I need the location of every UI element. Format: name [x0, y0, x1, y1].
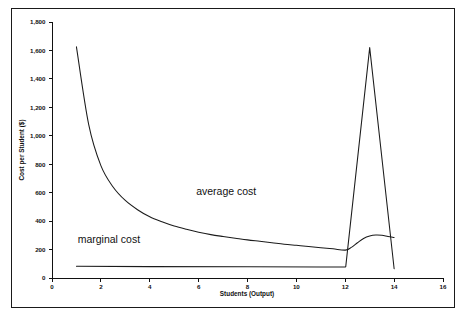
x-tick-label: 6 — [197, 283, 201, 290]
y-tick-label: 1,400 — [30, 75, 46, 82]
x-tick-label: 10 — [293, 283, 300, 290]
y-tick-label: 1,800 — [30, 18, 46, 25]
x-tick-label: 4 — [148, 283, 152, 290]
y-tick-label: 1,200 — [30, 104, 46, 111]
y-tick-label: 0 — [42, 274, 46, 281]
y-tick-label: 800 — [35, 161, 46, 168]
x-tick-label: 2 — [99, 283, 103, 290]
x-axis-tick-group: 0246810121416 — [50, 278, 447, 290]
marginal-cost-label: marginal cost — [78, 233, 141, 245]
x-tick-label: 8 — [246, 283, 250, 290]
y-axis-tick-group: 02004006008001,0001,2001,4001,6001,800 — [30, 18, 52, 281]
average-cost-curve — [76, 47, 394, 250]
y-axis-title: Cost per Student ($) — [18, 119, 26, 180]
y-tick-label: 200 — [35, 246, 46, 253]
average-cost-label: average cost — [196, 185, 256, 197]
x-tick-label: 0 — [50, 283, 54, 290]
x-axis-title: Students (Output) — [220, 290, 274, 298]
y-tick-label: 600 — [35, 189, 46, 196]
chart-figure: 02004006008001,0001,2001,4001,6001,800 0… — [0, 0, 465, 318]
y-tick-label: 1,000 — [30, 132, 46, 139]
y-tick-label: 1,600 — [30, 47, 46, 54]
x-tick-label: 16 — [440, 283, 447, 290]
x-tick-label: 14 — [391, 283, 398, 290]
x-tick-label: 12 — [342, 283, 349, 290]
cost-curves-plot: 02004006008001,0001,2001,4001,6001,800 0… — [0, 0, 465, 318]
y-tick-label: 400 — [35, 217, 46, 224]
